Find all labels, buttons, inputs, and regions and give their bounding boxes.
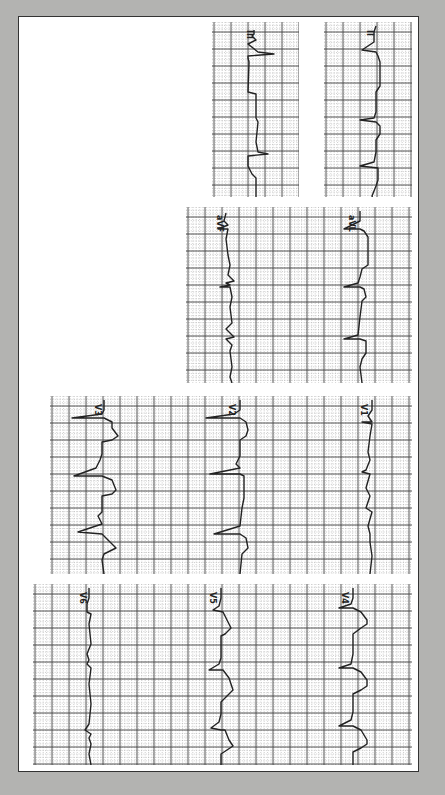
lead-avf: aVF xyxy=(215,213,234,383)
strip-limb-2: aVFaVL xyxy=(186,207,412,383)
lead-label: aVL xyxy=(347,215,356,232)
lead-label: V2 xyxy=(227,404,236,416)
ecg-trace xyxy=(362,400,372,574)
ecg-trace xyxy=(344,211,368,383)
strip-precordial-1: V3V2V1 xyxy=(50,396,412,574)
lead-v1: V1 xyxy=(359,400,372,574)
lead-avl: aVL xyxy=(344,211,368,383)
lead-label: V6 xyxy=(78,592,87,604)
lead-label: V5 xyxy=(208,592,217,604)
lead-label: V4 xyxy=(340,592,349,604)
lead-label: aVF xyxy=(215,215,224,232)
ecg-trace xyxy=(218,213,234,383)
lead-label: V1 xyxy=(359,404,368,416)
strip-ii: II xyxy=(324,22,412,197)
lead-label: V3 xyxy=(93,404,102,416)
strip-precordial-2: V6V5V4 xyxy=(33,584,412,765)
lead-label: II xyxy=(365,30,374,36)
strip-iii: III xyxy=(212,22,299,197)
lead-label: III xyxy=(245,30,254,39)
